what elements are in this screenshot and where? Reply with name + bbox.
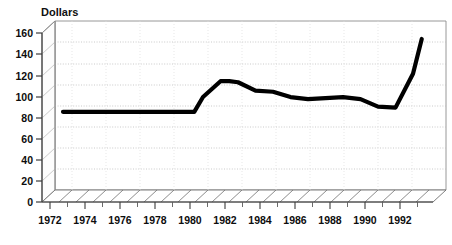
- line-chart: 0 20 40 60 80 100 120 140 160 Dollars: [0, 0, 452, 245]
- y-tick-label-20: 20: [21, 175, 33, 187]
- x-tick-label-1980: 1980: [178, 214, 202, 226]
- x-tick-label-1984: 1984: [248, 214, 272, 226]
- x-tick-label-1988: 1988: [318, 214, 342, 226]
- x-tick-label-1990: 1990: [353, 214, 377, 226]
- x-tick-label-1978: 1978: [143, 214, 167, 226]
- floor-plane: [42, 190, 446, 202]
- x-tick-label-1986: 1986: [283, 214, 307, 226]
- y-tick-label-120: 120: [15, 70, 33, 82]
- chart-container: 0 20 40 60 80 100 120 140 160 Dollars: [0, 0, 452, 245]
- x-tick-label-1992: 1992: [388, 214, 412, 226]
- x-tick-label-1976: 1976: [108, 214, 132, 226]
- y-tick-label-160: 160: [15, 27, 33, 39]
- y-tick-label-80: 80: [21, 112, 33, 124]
- y-tick-label-60: 60: [21, 133, 33, 145]
- x-tick-label-1982: 1982: [213, 214, 237, 226]
- x-tick-label-1972: 1972: [38, 214, 62, 226]
- x-tick-label-1974: 1974: [73, 214, 97, 226]
- y-tick-label-100: 100: [15, 91, 33, 103]
- y-tick-label-140: 140: [15, 48, 33, 60]
- y-tick-label-0: 0: [27, 196, 33, 208]
- y-axis-title: Dollars: [41, 6, 78, 18]
- y-tick-label-40: 40: [21, 154, 33, 166]
